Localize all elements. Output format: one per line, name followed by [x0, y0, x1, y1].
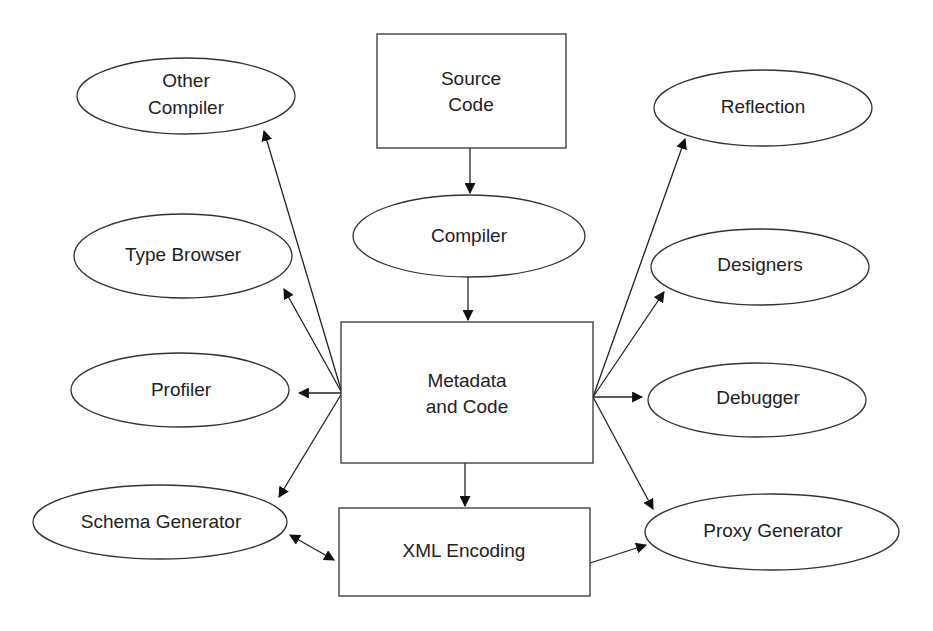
node-label: Debugger	[716, 387, 800, 408]
edge-metadata-to-designers	[593, 292, 664, 397]
node-other-compiler: Other Compiler	[77, 58, 295, 134]
node-label: Designers	[717, 254, 803, 275]
edge-xml-to-proxy-generator	[590, 545, 646, 563]
node-proxy-generator: Proxy Generator	[645, 494, 899, 570]
node-label: Proxy Generator	[703, 520, 843, 541]
edge-schema-xml-bidirectional	[290, 535, 334, 560]
node-label: and Code	[426, 396, 508, 417]
node-label: Compiler	[148, 97, 225, 118]
node-compiler: Compiler	[353, 195, 585, 277]
node-label: Other	[162, 70, 210, 91]
node-schema-generator: Schema Generator	[33, 485, 287, 559]
node-label: Schema Generator	[81, 511, 242, 532]
edge-metadata-to-schema-generator	[279, 393, 342, 497]
node-reflection: Reflection	[654, 70, 872, 146]
node-metadata-and-code: Metadata and Code	[341, 322, 593, 463]
edge-metadata-to-type-browser	[284, 289, 342, 393]
node-label: Type Browser	[125, 244, 242, 265]
node-label: Profiler	[151, 379, 212, 400]
node-designers: Designers	[651, 229, 869, 305]
node-label: Code	[448, 94, 493, 115]
node-label: Source	[441, 68, 501, 89]
node-label: Compiler	[431, 225, 508, 246]
node-label: Metadata	[427, 370, 507, 391]
node-label: XML Encoding	[403, 540, 526, 561]
node-label: Reflection	[721, 96, 806, 117]
node-xml-encoding: XML Encoding	[339, 508, 590, 596]
metadata-diagram: Source Code Compiler Metadata and Code X…	[0, 0, 933, 631]
edge-metadata-to-proxy-generator	[593, 397, 653, 509]
node-source-code: Source Code	[377, 34, 566, 148]
node-type-browser: Type Browser	[74, 214, 292, 298]
node-profiler: Profiler	[71, 353, 289, 427]
node-debugger: Debugger	[648, 363, 866, 437]
